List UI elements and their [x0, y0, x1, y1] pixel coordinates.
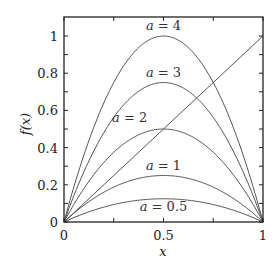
- curve-label: a = 0.5: [140, 199, 188, 214]
- y-tick-label: 0.2: [37, 178, 58, 193]
- y-axis-label: f(x): [18, 113, 33, 136]
- curve-labels: a = 4a = 3a = 2a = 1a = 0.5: [112, 18, 187, 213]
- ticks: [64, 17, 263, 222]
- plot-frame: [64, 17, 263, 222]
- curve-label: a = 2: [112, 110, 147, 125]
- y-tick-label: 0: [50, 215, 58, 230]
- curves: [64, 36, 263, 222]
- x-tick-label: 0.5: [153, 228, 174, 243]
- x-axis-label: x: [159, 244, 167, 259]
- series-line-5: [64, 36, 263, 222]
- y-tick-label: 1: [50, 29, 58, 44]
- y-tick-label: 0.4: [37, 141, 58, 156]
- curve-label: a = 4: [146, 18, 181, 33]
- curve-label: a = 1: [146, 158, 181, 173]
- y-tick-label: 0.8: [37, 66, 58, 81]
- chart: 00.5100.20.40.60.81 a = 4a = 3a = 2a = 1…: [0, 0, 280, 267]
- y-tick-label: 0.6: [37, 103, 58, 118]
- x-tick-label: 1: [259, 228, 267, 243]
- x-tick-label: 0: [60, 228, 68, 243]
- curve-label: a = 3: [146, 65, 181, 80]
